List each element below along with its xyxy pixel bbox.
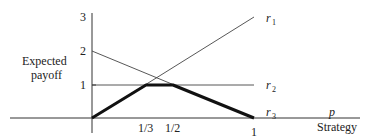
y-axis-label-line2: payoff [31,68,62,82]
label-r1: r [266,11,271,25]
y-tick-label-3: 3 [80,10,86,24]
label-r3-sub: 3 [272,112,276,121]
label-r2-sub: 2 [272,85,276,94]
label-r3: r [266,105,271,119]
x-axis-label: Strategy [317,120,357,134]
x-tick-label-1-3: 1/3 [138,121,153,135]
x-axis-var-p: p [328,105,335,119]
y-axis-label-line1: Expected [22,54,67,68]
min-envelope-line [92,85,254,118]
y-tick-label-2: 2 [80,44,86,58]
x-tick-label-1-2: 1/2 [165,121,180,135]
label-r1-sub: 1 [272,18,276,27]
label-r2: r [266,78,271,92]
x-tick-label-1: 1 [251,125,257,139]
payoff-diagram: 1 2 3 1/3 1/2 1 r 1 r 2 r 3 p Strategy E… [0,0,378,140]
y-tick-label-1: 1 [80,78,86,92]
